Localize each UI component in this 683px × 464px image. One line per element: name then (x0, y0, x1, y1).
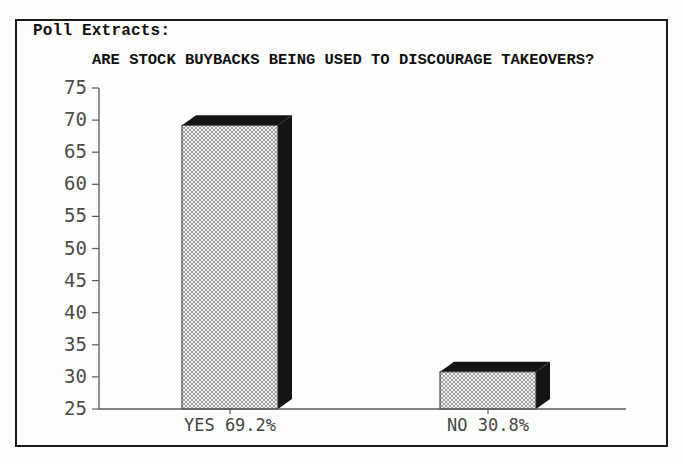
category-label-no: NO 30.8% (447, 415, 529, 435)
bar-yes-top (182, 115, 292, 125)
y-tick-label-25: 25 (64, 397, 87, 419)
bar-no-top (440, 362, 550, 372)
bar-yes (182, 115, 292, 409)
y-tick-label-60: 60 (64, 172, 87, 194)
y-tick-label-75: 75 (64, 76, 87, 98)
bar-yes-front (182, 125, 278, 409)
y-tick-label-70: 70 (64, 108, 87, 130)
bars-layer (182, 115, 550, 409)
y-tick-label-55: 55 (64, 204, 87, 226)
poll-chart-screen: Poll Extracts: ARE STOCK BUYBACKS BEING … (0, 0, 683, 464)
bar-no (440, 362, 550, 409)
chart-canvas: YES 69.2%NO 30.8%7570656055504540353025 (0, 0, 683, 464)
y-tick-label-35: 35 (64, 333, 87, 355)
y-tick-label-50: 50 (64, 237, 87, 259)
y-tick-label-40: 40 (64, 301, 87, 323)
y-tick-label-45: 45 (64, 269, 87, 291)
y-tick-label-65: 65 (64, 140, 87, 162)
category-label-yes: YES 69.2% (184, 415, 276, 435)
y-tick-label-30: 30 (64, 365, 87, 387)
bar-no-front (440, 372, 536, 409)
bar-yes-side (278, 115, 292, 409)
